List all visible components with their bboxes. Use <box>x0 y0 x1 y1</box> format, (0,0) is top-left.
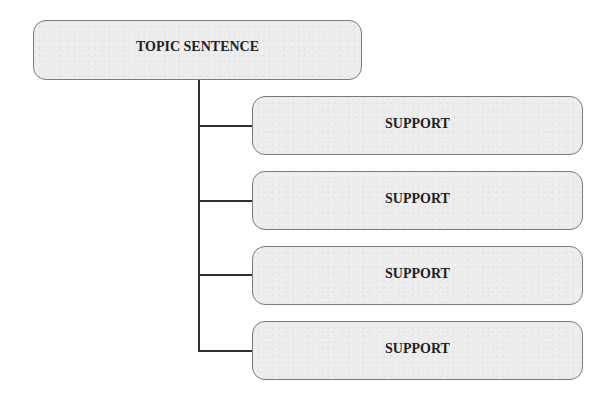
support-box-4: SUPPORT <box>252 321 583 380</box>
support-label-1: SUPPORT <box>385 116 450 132</box>
support-box-2: SUPPORT <box>252 171 583 230</box>
connector-branch-4 <box>198 350 252 352</box>
connector-branch-1 <box>198 125 252 127</box>
topic-sentence-label: TOPIC SENTENCE <box>136 39 259 55</box>
topic-sentence-box: TOPIC SENTENCE <box>33 20 362 80</box>
support-label-2: SUPPORT <box>385 191 450 207</box>
support-label-3: SUPPORT <box>385 266 450 282</box>
connector-trunk <box>198 80 200 351</box>
support-label-4: SUPPORT <box>385 341 450 357</box>
support-box-1: SUPPORT <box>252 96 583 155</box>
support-box-3: SUPPORT <box>252 246 583 305</box>
connector-branch-2 <box>198 200 252 202</box>
connector-branch-3 <box>198 274 252 276</box>
